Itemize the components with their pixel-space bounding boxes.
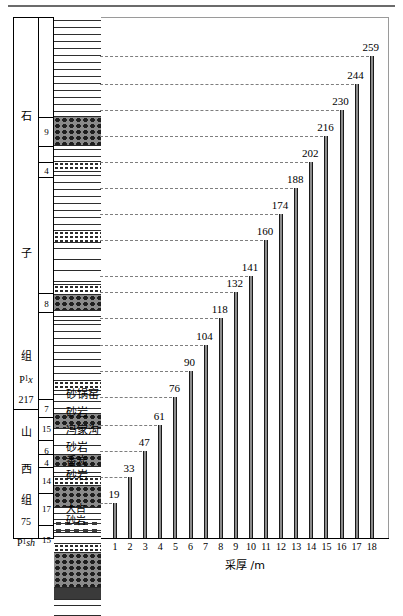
era-divider (13, 538, 39, 539)
gridline (100, 188, 293, 189)
formation-name-sandstone-1: 砂岩 (66, 403, 88, 419)
x-tick-1: 1 (113, 541, 118, 552)
x-tick-6: 6 (188, 541, 193, 552)
era-divider (13, 409, 39, 410)
gridline (100, 371, 188, 372)
lithology-bed (54, 146, 101, 162)
gridline (100, 292, 233, 293)
bar-value-label: 90 (184, 356, 195, 368)
bar-18 (370, 56, 374, 538)
bed-divider (39, 293, 54, 294)
bar-7 (204, 345, 208, 538)
bed-divider (39, 467, 54, 468)
gridline (100, 477, 127, 478)
bar-value-label: 230 (332, 95, 349, 107)
bar-chart-plot-area: 1933476176901041181321411601741882022162… (101, 17, 389, 539)
bar-11 (264, 240, 268, 538)
x-tick-16: 16 (337, 541, 347, 552)
lithology-bed (54, 311, 101, 321)
x-axis-label: 采厚 /m (225, 556, 265, 572)
formation-name-shaguoyao: 砂锅窑 (66, 385, 99, 401)
x-tick-17: 17 (352, 541, 362, 552)
x-tick-2: 2 (128, 541, 133, 552)
gridline (100, 425, 157, 426)
bar-10 (249, 276, 253, 538)
lithology-bed (54, 321, 101, 381)
lithology-bed (54, 553, 101, 588)
era-label-zi: 子 (13, 242, 39, 266)
lithology-bed (54, 243, 101, 285)
bed-divider (39, 399, 54, 400)
gridline (100, 345, 203, 346)
gridline (100, 318, 218, 319)
bed-number-9: 9 (39, 119, 54, 145)
era-label-p1x: P1x (13, 372, 39, 388)
gridline (100, 451, 142, 452)
bar-value-label: 160 (257, 225, 274, 237)
gridline (100, 162, 308, 163)
bar-14 (309, 162, 313, 538)
era-label-zu: 组 (13, 347, 39, 367)
era-label-zu2: 组 (13, 491, 39, 511)
gridline (100, 56, 369, 57)
page-rule (8, 5, 395, 7)
x-tick-15: 15 (321, 541, 331, 552)
bar-value-label: 216 (317, 121, 334, 133)
bed-divider (39, 417, 54, 418)
lithology-bed (54, 231, 101, 243)
bar-value-label: 118 (212, 303, 228, 315)
bed-number-6: 6 (39, 444, 54, 457)
bar-value-label: 76 (169, 382, 180, 394)
x-tick-4: 4 (158, 541, 163, 552)
bed-divider (39, 177, 54, 178)
bed-number-15a: 15 (39, 421, 54, 437)
bar-value-label: 61 (154, 410, 165, 422)
bed-divider (39, 146, 54, 147)
bar-value-label: 141 (242, 261, 259, 273)
bar-13 (294, 188, 298, 538)
bar-value-label: 244 (347, 69, 364, 81)
lithology-bed (54, 117, 101, 146)
bar-value-label: 19 (109, 488, 120, 500)
bar-15 (324, 136, 328, 538)
x-tick-7: 7 (203, 541, 208, 552)
bed-number-14: 14 (39, 470, 54, 492)
bar-9 (234, 292, 238, 538)
gridline (100, 240, 263, 241)
era-label-shi: 石 (13, 105, 39, 129)
bar-3 (143, 451, 147, 538)
bed-divider (39, 117, 54, 118)
x-tick-11: 11 (261, 541, 271, 552)
lithology-bed-coal (54, 588, 101, 600)
bar-value-label: 132 (227, 277, 244, 289)
era-label-75: 75 (13, 514, 39, 530)
bar-value-label: 47 (139, 436, 150, 448)
era-divider (13, 17, 39, 18)
bed-number-8: 8 (39, 296, 54, 312)
bed-divider (39, 312, 54, 313)
x-tick-8: 8 (218, 541, 223, 552)
bar-5 (173, 397, 177, 538)
era-label-217: 217 (13, 392, 39, 408)
bar-1 (113, 503, 117, 538)
gridline (100, 136, 323, 137)
formation-name-sandstone-3: 砂岩 (66, 466, 88, 482)
era-label-xi: 西 (13, 460, 39, 480)
lithology-bed (54, 295, 101, 311)
bar-value-label: 33 (124, 462, 135, 474)
bar-17 (355, 84, 359, 538)
x-tick-18: 18 (367, 541, 377, 552)
x-tick-13: 13 (291, 541, 301, 552)
bed-number-7: 7 (39, 401, 54, 417)
bar-value-label: 202 (302, 147, 319, 159)
x-tick-9: 9 (233, 541, 238, 552)
x-axis-line (101, 538, 389, 539)
formation-name-sandstone-4: 砂岩 (66, 512, 86, 527)
bar-6 (189, 371, 193, 538)
x-tick-5: 5 (173, 541, 178, 552)
bar-2 (128, 477, 132, 538)
bar-value-label: 174 (272, 199, 289, 211)
bar-4 (158, 425, 162, 538)
lithology-bed (54, 17, 101, 117)
bar-value-label: 188 (287, 173, 304, 185)
